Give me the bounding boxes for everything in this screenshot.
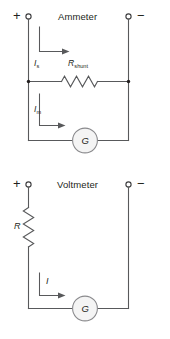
- voltmeter-title: Voltmeter: [57, 180, 98, 190]
- series-resistor-label: R: [14, 222, 21, 231]
- shunt-resistor-subscript: shunt: [74, 63, 88, 69]
- series-resistor-symbol: [23, 208, 33, 248]
- ammeter-panel: [26, 14, 131, 153]
- voltmeter-negative-terminal-icon: [126, 182, 131, 187]
- ammeter-left-junction-dot: [27, 80, 30, 83]
- meter-current-arrow-path: [40, 94, 59, 126]
- ammeter-right-junction-dot: [127, 80, 130, 83]
- voltmeter-negative-sign: −: [137, 177, 145, 190]
- shunt-current-arrowhead: [62, 49, 70, 55]
- figure-canvas: + Ammeter − Is Rshunt Im G + Voltmeter −…: [0, 0, 170, 339]
- ammeter-negative-sign: −: [137, 9, 145, 22]
- voltmeter-positive-sign: +: [13, 177, 21, 190]
- total-current-arrow-path: [40, 273, 59, 296]
- ammeter-positive-sign: +: [13, 9, 21, 22]
- ammeter-negative-terminal-icon: [126, 14, 131, 19]
- shunt-resistor-label: Rshunt: [68, 59, 88, 68]
- ammeter-positive-terminal-icon: [26, 14, 31, 19]
- ammeter-title: Ammeter: [58, 12, 97, 22]
- meter-current-subscript: m: [37, 109, 42, 115]
- total-current-label: I: [46, 277, 49, 286]
- voltmeter-panel: [23, 182, 131, 321]
- shunt-current-subscript: s: [37, 63, 40, 69]
- shunt-current-arrow-path: [40, 27, 63, 52]
- shunt-current-label: Is: [34, 59, 39, 68]
- total-current-arrowhead: [58, 293, 66, 299]
- voltmeter-galvanometer-label: G: [82, 304, 89, 314]
- voltmeter-positive-terminal-icon: [26, 182, 31, 187]
- circuit-artwork: [0, 0, 170, 339]
- shunt-resistor-symbol: [62, 76, 98, 87]
- ammeter-galvanometer-label: G: [82, 136, 89, 146]
- meter-current-arrowhead: [58, 123, 66, 129]
- meter-current-label: Im: [34, 105, 41, 114]
